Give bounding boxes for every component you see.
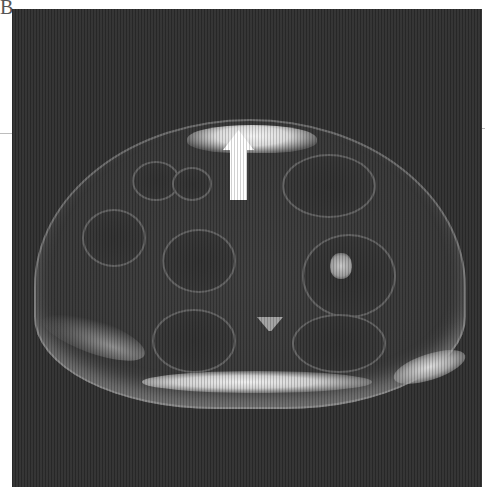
mri-scan-image [12, 9, 482, 487]
bowel-loop [282, 154, 376, 218]
kidney-outline [302, 234, 396, 318]
arrow-head [223, 130, 254, 150]
bowel-loop [82, 209, 146, 267]
arrow-shaft [230, 149, 247, 200]
bowel-loop [172, 167, 212, 201]
kidney-bright-spot [330, 253, 352, 279]
arrow-up-icon [223, 130, 254, 200]
bowel-loop [152, 309, 236, 373]
bowel-loop [162, 229, 236, 293]
posterior-fat-layer [142, 371, 372, 393]
bowel-loop [292, 314, 386, 373]
